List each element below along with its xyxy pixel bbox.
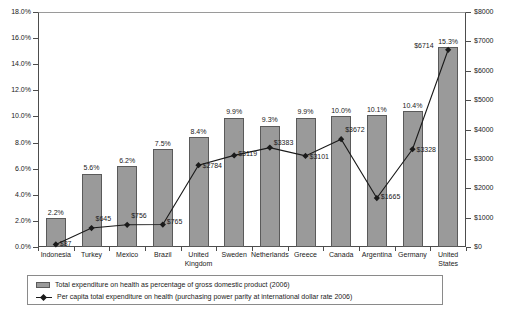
category-label: United States [427, 251, 469, 268]
legend-label-line: Per capita total expenditure on health (… [57, 293, 352, 301]
line-value-label: $3119 [238, 150, 257, 158]
left-axis-tick [33, 195, 38, 196]
line-value-label: $6714 [414, 42, 433, 50]
bar-value-label: 9.9% [218, 108, 250, 116]
right-axis-tick-label: $7000 [474, 37, 513, 45]
left-axis-tick-label: 6.0% [0, 165, 31, 173]
bar-value-label: 15.3% [432, 38, 464, 46]
bar-value-label: 7.5% [147, 140, 179, 148]
left-axis-tick [33, 221, 38, 222]
right-axis-tick-label: $5000 [474, 96, 513, 104]
right-axis-tick-label: $8000 [474, 8, 513, 16]
bar-value-label: 2.2% [40, 209, 72, 217]
left-axis-tick-label: 12.0% [0, 86, 31, 94]
right-axis-tick-label: $0 [474, 243, 513, 251]
right-axis-tick [466, 218, 471, 219]
left-axis-tick-label: 4.0% [0, 191, 31, 199]
line-marker-icon [36, 293, 52, 301]
right-axis-tick-label: $3000 [474, 155, 513, 163]
line-value-label: $3383 [274, 139, 293, 147]
right-axis-tick-label: $1000 [474, 214, 513, 222]
bar-value-label: 5.6% [76, 164, 108, 172]
bar [403, 111, 423, 247]
left-axis-tick-label: 14.0% [0, 60, 31, 68]
line-value-label: $765 [167, 218, 183, 226]
bar-value-label: 8.4% [183, 128, 215, 136]
chart-legend: Total expenditure on health as percentag… [27, 275, 443, 305]
line-value-label: $2784 [203, 162, 222, 170]
right-axis-tick [466, 71, 471, 72]
legend-item-bar: Total expenditure on health as percentag… [36, 279, 290, 291]
left-axis-tick [33, 12, 38, 13]
legend-label-bar: Total expenditure on health as percentag… [55, 281, 290, 289]
right-axis-tick [466, 130, 471, 131]
bar [296, 118, 316, 247]
line-value-label: $3101 [310, 153, 329, 161]
right-axis-tick-label: $6000 [474, 67, 513, 75]
right-axis-tick [466, 159, 471, 160]
left-axis-tick-label: 18.0% [0, 8, 31, 16]
right-axis-tick [466, 188, 471, 189]
bar-value-label: 10.4% [397, 102, 429, 110]
left-axis-tick [33, 64, 38, 65]
right-axis-tick [466, 12, 471, 13]
bar-value-label: 9.9% [290, 108, 322, 116]
left-axis-tick-label: 0.0% [0, 243, 31, 251]
right-axis-tick-label: $4000 [474, 126, 513, 134]
chart-container: 0.0%2.0%4.0%6.0%8.0%10.0%12.0%14.0%16.0%… [0, 0, 513, 311]
bar [367, 115, 387, 247]
left-axis-tick-label: 8.0% [0, 139, 31, 147]
line-value-label: $1665 [381, 193, 400, 201]
left-axis-tick [33, 90, 38, 91]
line-value-label: $645 [96, 215, 112, 223]
line-value-label: $3328 [417, 146, 436, 154]
left-axis-tick [33, 143, 38, 144]
legend-item-line: Per capita total expenditure on health (… [36, 291, 352, 303]
left-axis-tick [33, 116, 38, 117]
bar-value-label: 9.3% [254, 116, 286, 124]
left-axis-tick-label: 10.0% [0, 112, 31, 120]
bar [117, 166, 137, 247]
bar-value-label: 10.1% [361, 106, 393, 114]
left-axis-tick [33, 169, 38, 170]
right-axis-tick [466, 41, 471, 42]
left-axis-tick-label: 16.0% [0, 34, 31, 42]
left-axis-tick-label: 2.0% [0, 217, 31, 225]
bar-value-label: 6.2% [111, 157, 143, 165]
bar [189, 137, 209, 247]
bar [331, 116, 351, 247]
right-axis-tick [466, 100, 471, 101]
bar [153, 149, 173, 247]
right-axis-tick-label: $2000 [474, 184, 513, 192]
bar-value-label: 10.0% [325, 107, 357, 115]
line-value-label: $756 [131, 212, 147, 220]
line-value-label: $87 [60, 240, 72, 248]
bar [224, 118, 244, 247]
bar [438, 47, 458, 247]
left-axis-tick [33, 38, 38, 39]
bar-swatch-icon [36, 282, 50, 288]
bar [82, 174, 102, 247]
line-value-label: $3672 [345, 126, 364, 134]
